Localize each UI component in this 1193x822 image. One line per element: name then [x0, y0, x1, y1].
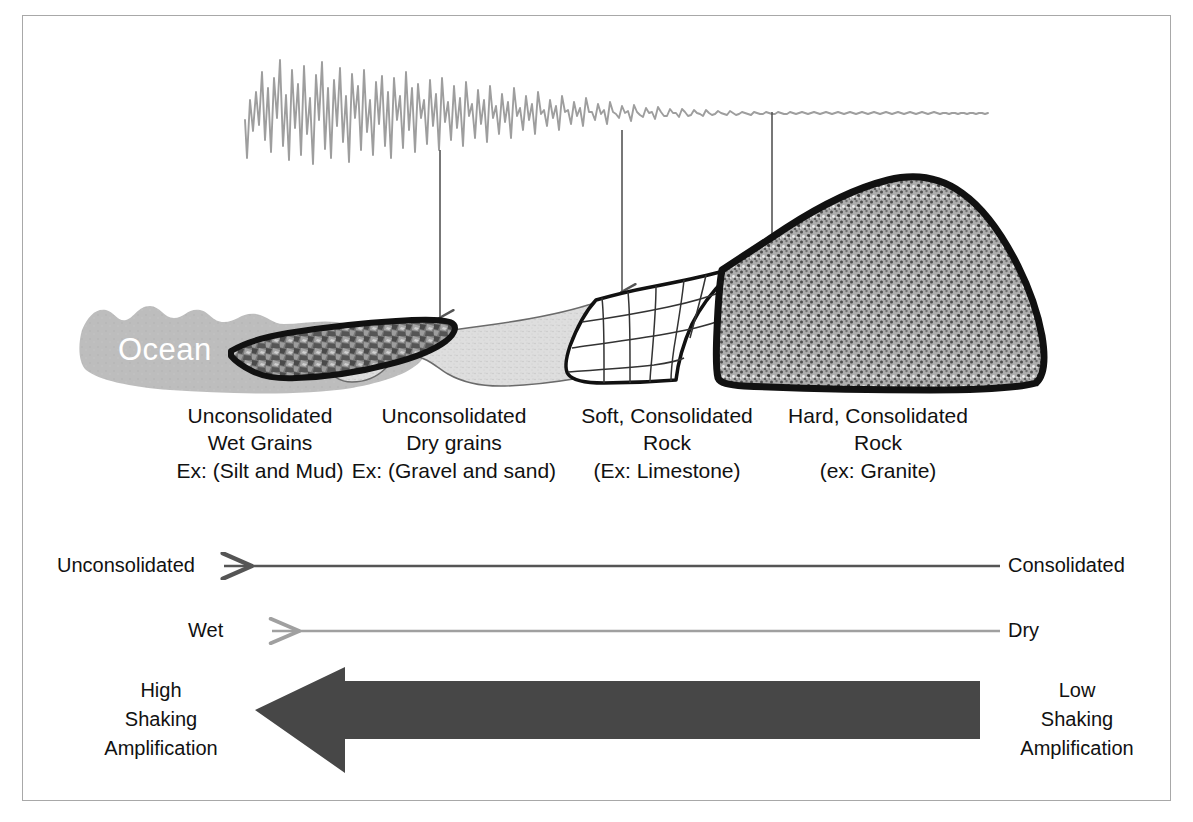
label-line: Unconsolidated	[342, 402, 566, 429]
label-line: Low	[992, 676, 1162, 705]
label-line: Wet Grains	[150, 429, 370, 456]
seismic-waveform-trace	[245, 60, 988, 164]
shaking-amplification-block-arrow	[255, 667, 980, 773]
label-line: Shaking	[992, 705, 1162, 734]
label-line: Rock	[772, 429, 984, 456]
label-line: Shaking	[76, 705, 246, 734]
scale-label-consolidated: Consolidated	[1008, 554, 1125, 577]
scale-label-unconsolidated: Unconsolidated	[57, 554, 195, 577]
label-line: Unconsolidated	[150, 402, 370, 429]
label-line: Rock	[562, 429, 772, 456]
label-line: High	[76, 676, 246, 705]
label-line: Hard, Consolidated	[772, 402, 984, 429]
label-unconsolidated-dry-grains: Unconsolidated Dry grains Ex: (Gravel an…	[342, 402, 566, 484]
scale-label-wet: Wet	[188, 619, 223, 642]
label-line: Soft, Consolidated	[562, 402, 772, 429]
scale-label-dry: Dry	[1008, 619, 1039, 642]
label-line: Amplification	[992, 734, 1162, 763]
label-line: Ex: (Silt and Mud)	[150, 457, 370, 484]
label-line: (Ex: Limestone)	[562, 457, 772, 484]
label-soft-consolidated-rock: Soft, Consolidated Rock (Ex: Limestone)	[562, 402, 772, 484]
label-line: (ex: Granite)	[772, 457, 984, 484]
label-line: Amplification	[76, 734, 246, 763]
label-high-shaking-amplification: High Shaking Amplification	[76, 676, 246, 763]
label-hard-consolidated-rock: Hard, Consolidated Rock (ex: Granite)	[772, 402, 984, 484]
label-low-shaking-amplification: Low Shaking Amplification	[992, 676, 1162, 763]
label-unconsolidated-wet-grains: Unconsolidated Wet Grains Ex: (Silt and …	[150, 402, 370, 484]
label-line: Ex: (Gravel and sand)	[342, 457, 566, 484]
label-line: Dry grains	[342, 429, 566, 456]
ocean-label: Ocean	[118, 332, 212, 368]
seismic-amplification-diagram: Ocean Unconsolidated Wet Grains Ex: (Sil…	[0, 0, 1193, 822]
hard-consolidated-rock-body	[716, 177, 1044, 390]
soft-consolidated-rock-body	[566, 272, 726, 383]
